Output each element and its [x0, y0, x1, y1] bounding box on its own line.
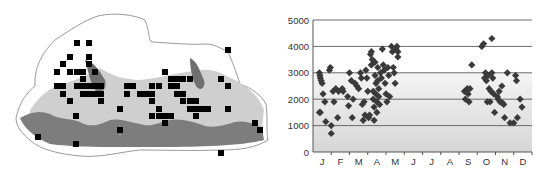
distribution-map — [0, 0, 275, 174]
y-tick-label: 0 — [304, 147, 309, 158]
record-square — [130, 83, 136, 89]
record-square — [180, 76, 186, 82]
record-square — [156, 83, 162, 89]
record-square — [156, 113, 162, 119]
record-square — [73, 141, 79, 147]
y-tick-label: 1000 — [288, 120, 309, 131]
record-square — [98, 83, 104, 89]
record-square — [86, 91, 92, 97]
record-square — [98, 91, 104, 97]
record-square — [92, 69, 98, 75]
record-square — [168, 76, 174, 82]
record-square — [180, 91, 186, 97]
record-square — [168, 83, 174, 89]
record-square — [86, 61, 92, 67]
x-tick-label: M — [355, 156, 363, 167]
record-square — [225, 83, 231, 89]
record-square — [187, 98, 193, 104]
x-tick-label: J — [411, 156, 416, 167]
record-square — [225, 106, 231, 112]
y-tick-label: 2000 — [288, 94, 309, 105]
record-square — [180, 98, 186, 104]
record-square — [187, 106, 193, 112]
record-square — [187, 76, 193, 82]
record-square — [54, 83, 60, 89]
record-square — [199, 106, 205, 112]
x-tick-label: D — [519, 156, 526, 167]
shaded-band — [313, 73, 532, 152]
record-square — [168, 113, 174, 119]
record-square — [67, 54, 73, 60]
record-square — [149, 113, 155, 119]
record-square — [124, 83, 130, 89]
record-square — [86, 83, 92, 89]
record-square — [143, 91, 149, 97]
record-square — [205, 106, 211, 112]
record-square — [225, 47, 231, 53]
x-tick-label: S — [465, 156, 471, 167]
record-square — [149, 83, 155, 89]
map-canvas — [0, 0, 275, 174]
record-square — [117, 127, 123, 133]
record-square — [80, 83, 86, 89]
record-square — [74, 69, 80, 75]
record-square — [252, 120, 258, 126]
record-square — [162, 113, 168, 119]
record-square — [35, 134, 41, 140]
record-square — [86, 54, 92, 60]
x-tick-label: A — [447, 156, 454, 167]
record-square — [98, 98, 104, 104]
record-square — [174, 83, 180, 89]
x-tick-label: J — [429, 156, 434, 167]
x-tick-label: F — [337, 156, 343, 167]
record-square — [156, 106, 162, 112]
record-square — [124, 91, 130, 97]
x-tick-label: N — [501, 156, 508, 167]
record-square — [193, 106, 199, 112]
y-tick-label: 3000 — [288, 67, 309, 78]
record-square — [92, 83, 98, 89]
record-square — [54, 69, 60, 75]
record-square — [74, 40, 80, 46]
scatter-plot: 010002000300040005000 JFMAMJJASOND — [275, 0, 548, 174]
y-tick-label: 4000 — [288, 41, 309, 52]
y-tick-label: 5000 — [288, 15, 309, 26]
record-square — [174, 76, 180, 82]
record-square — [67, 69, 73, 75]
x-tick-label: J — [320, 156, 325, 167]
record-square — [174, 91, 180, 97]
x-tick-label: M — [391, 156, 399, 167]
record-square — [193, 113, 199, 119]
record-square — [74, 83, 80, 89]
record-square — [86, 40, 92, 46]
record-square — [67, 98, 73, 104]
x-tick-label: O — [483, 156, 490, 167]
record-square — [149, 91, 155, 97]
record-square — [149, 98, 155, 104]
x-tick-labels: JFMAMJJASOND — [320, 152, 532, 167]
x-tick-label: A — [374, 156, 381, 167]
elevation-by-month-chart: 010002000300040005000 JFMAMJJASOND — [275, 0, 548, 174]
record-square — [80, 91, 86, 97]
record-square — [92, 91, 98, 97]
record-square — [73, 113, 79, 119]
record-square — [162, 120, 168, 126]
record-square — [218, 76, 224, 82]
record-square — [137, 91, 143, 97]
record-square — [117, 106, 123, 112]
record-square — [60, 61, 66, 67]
y-tick-labels: 010002000300040005000 — [288, 15, 309, 158]
record-square — [80, 76, 86, 82]
record-square — [193, 98, 199, 104]
record-square — [60, 83, 66, 89]
record-square — [162, 69, 168, 75]
record-square — [80, 69, 86, 75]
record-square — [60, 91, 66, 97]
record-square — [257, 127, 263, 133]
record-square — [218, 150, 224, 156]
